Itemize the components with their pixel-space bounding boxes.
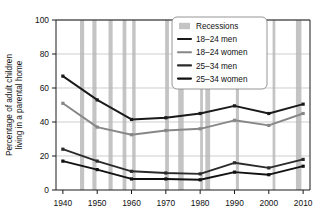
x-axis-ticks: 19401950196019701980199020002010: [54, 190, 313, 208]
data-point-marker: [302, 103, 305, 106]
data-point-marker: [61, 160, 64, 163]
y-axis-title-line: Percentage of adult children: [5, 54, 14, 156]
data-point-marker: [96, 168, 99, 171]
recession-band: [165, 20, 169, 190]
x-tick-label: 1980: [191, 198, 210, 208]
data-point-marker: [199, 112, 202, 115]
legend-entry-label: 25–34 women: [196, 75, 248, 84]
x-tick-label: 1990: [225, 198, 244, 208]
y-axis-title-line: living in a parental home: [15, 60, 24, 149]
x-tick-label: 1950: [88, 198, 107, 208]
recession-band: [273, 20, 276, 190]
data-point-marker: [164, 116, 167, 119]
y-axis-title: Percentage of adult childrenliving in a …: [5, 54, 24, 156]
data-point-marker: [233, 161, 236, 164]
data-point-marker: [302, 158, 305, 161]
data-point-marker: [233, 104, 236, 107]
y-tick-label: 100: [35, 15, 49, 25]
data-point-marker: [96, 126, 99, 129]
x-tick-label: 1940: [54, 198, 73, 208]
x-tick-label: 2010: [294, 198, 313, 208]
y-tick-label: 20: [40, 151, 50, 161]
data-point-marker: [164, 177, 167, 180]
data-point-marker: [61, 148, 64, 151]
data-point-marker: [199, 127, 202, 130]
data-point-marker: [302, 165, 305, 168]
data-point-marker: [130, 177, 133, 180]
y-tick-label: 60: [40, 83, 50, 93]
y-tick-label: 0: [44, 185, 49, 195]
data-point-marker: [96, 160, 99, 163]
data-point-marker: [199, 178, 202, 181]
data-point-marker: [96, 98, 99, 101]
x-tick-label: 1960: [122, 198, 141, 208]
recession-band: [80, 20, 84, 190]
legend-entry-label: 18–24 men: [196, 35, 237, 44]
data-point-marker: [267, 112, 270, 115]
chart-container: 020406080100 194019501960197019801990200…: [0, 0, 321, 224]
data-point-marker: [302, 112, 305, 115]
y-axis-ticks: 020406080100: [35, 15, 56, 195]
data-point-marker: [130, 133, 133, 136]
y-tick-label: 80: [40, 49, 50, 59]
data-point-marker: [130, 170, 133, 173]
data-point-marker: [233, 119, 236, 122]
data-point-marker: [267, 173, 270, 176]
data-point-marker: [61, 75, 64, 78]
data-point-marker: [164, 171, 167, 174]
data-point-marker: [61, 102, 64, 105]
recession-band: [92, 20, 96, 190]
data-point-marker: [199, 172, 202, 175]
line-chart: 020406080100 194019501960197019801990200…: [0, 0, 321, 224]
legend-entry-label: Recessions: [196, 22, 238, 31]
recession-band: [132, 20, 135, 190]
y-tick-label: 40: [40, 117, 50, 127]
x-tick-label: 1970: [157, 198, 176, 208]
data-point-marker: [267, 166, 270, 169]
recession-band: [123, 20, 127, 190]
data-point-marker: [267, 124, 270, 127]
legend-swatch-recessions: [179, 23, 190, 29]
chart-legend: Recessions18–24 men18–24 women25–34 men2…: [172, 17, 267, 89]
data-point-marker: [233, 171, 236, 174]
data-point-marker: [130, 118, 133, 121]
x-tick-label: 2000: [259, 198, 278, 208]
legend-entry-label: 18–24 women: [196, 48, 248, 57]
legend-entry-label: 25–34 men: [196, 62, 237, 71]
data-point-marker: [164, 129, 167, 132]
